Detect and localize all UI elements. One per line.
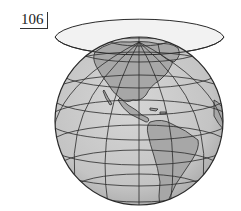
globe-diagram [0, 0, 241, 211]
globe [47, 34, 231, 210]
